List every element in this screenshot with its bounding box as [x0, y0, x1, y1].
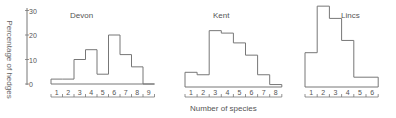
- x-tick-label: 5: [237, 89, 241, 96]
- x-tick-label: 6: [250, 89, 254, 96]
- histogram-lincs: [305, 6, 378, 87]
- x-tick-label: 3: [334, 89, 338, 96]
- y-tick-label: 20: [29, 32, 37, 39]
- x-tick-label: 4: [89, 89, 93, 96]
- x-tick-label: 1: [189, 89, 193, 96]
- x-tick-label: 8: [274, 89, 278, 96]
- x-tick-label: 6: [370, 89, 374, 96]
- x-tick-label: 5: [101, 89, 105, 96]
- x-tick-label: 1: [309, 89, 313, 96]
- x-tick-label: 7: [124, 89, 128, 96]
- x-tick-label: 2: [66, 89, 70, 96]
- x-tick-label: 1: [55, 89, 59, 96]
- x-tick-label: 8: [135, 89, 139, 96]
- x-tick-label: 2: [201, 89, 205, 96]
- histogram-chart: 010203012345678912345678123456: [0, 0, 396, 118]
- x-tick-label: 6: [112, 89, 116, 96]
- y-tick-label: 0: [29, 81, 33, 88]
- y-tick-label: 30: [29, 8, 37, 15]
- x-tick-label: 9: [147, 89, 151, 96]
- y-tick-label: 10: [29, 57, 37, 64]
- x-tick-label: 4: [225, 89, 229, 96]
- histogram-devon: [51, 35, 155, 84]
- x-tick-label: 3: [78, 89, 82, 96]
- x-tick-label: 3: [213, 89, 217, 96]
- x-tick-label: 4: [346, 89, 350, 96]
- x-tick-label: 2: [321, 89, 325, 96]
- x-tick-label: 7: [262, 89, 266, 96]
- histogram-kent: [185, 31, 282, 87]
- x-tick-label: 5: [358, 89, 362, 96]
